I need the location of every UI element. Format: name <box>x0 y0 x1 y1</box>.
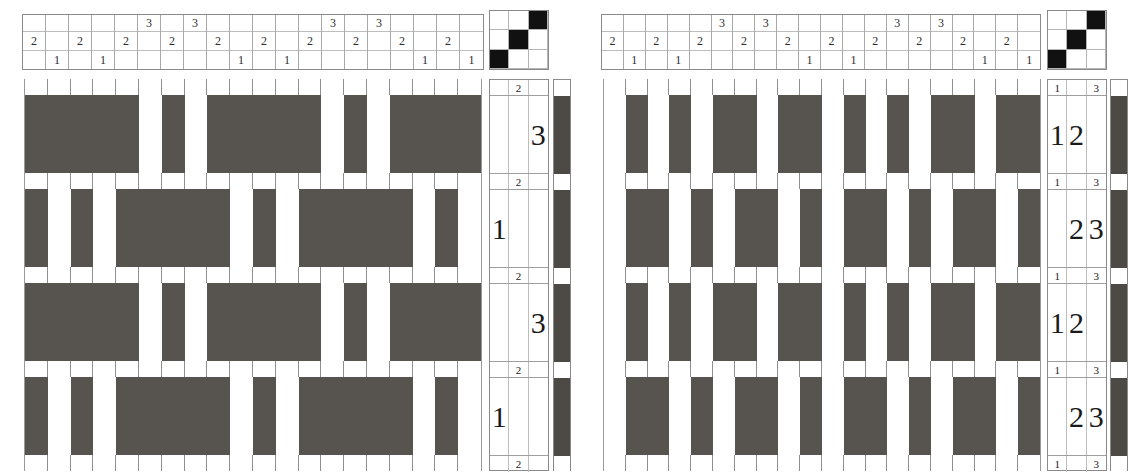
drawdown-cell-weft[interactable] <box>975 95 997 173</box>
threading-cell[interactable] <box>953 51 974 69</box>
drawdown-cell-warp[interactable] <box>162 95 185 173</box>
treadling-cell[interactable] <box>490 96 509 173</box>
treadling-cell[interactable]: 3 <box>1087 378 1106 455</box>
drawdown-cell-weft[interactable] <box>996 377 1018 455</box>
treadling-cell[interactable] <box>1067 174 1086 189</box>
drawdown-cell-warp[interactable] <box>713 283 735 361</box>
drawdown-cell-weft[interactable] <box>713 377 735 455</box>
treadling-row[interactable]: 13 <box>1048 268 1106 284</box>
treadling-cell[interactable]: 1 <box>1048 284 1067 361</box>
threading-cell[interactable] <box>115 15 137 32</box>
drawdown-cell-warp[interactable] <box>800 377 822 455</box>
threading-cell[interactable] <box>46 32 68 50</box>
threading-column[interactable]: 3 <box>931 15 953 69</box>
drawdown-cell-weft[interactable] <box>230 377 253 455</box>
tieup-cell-empty[interactable] <box>1067 11 1086 30</box>
threading-cell[interactable] <box>646 51 667 69</box>
threading-column[interactable]: 2 <box>953 15 975 69</box>
drawdown-cell-weft[interactable] <box>669 377 691 455</box>
threading-cell[interactable]: 3 <box>931 15 952 32</box>
tieup-cell-empty[interactable] <box>1048 30 1067 49</box>
tieup-cell-filled[interactable] <box>1087 11 1106 30</box>
treadling-cell[interactable]: 3 <box>529 284 548 361</box>
drawdown-cell-warp[interactable] <box>975 189 997 267</box>
drawdown-cell-weft[interactable] <box>887 189 909 267</box>
treadling-row[interactable]: 13 <box>1048 362 1106 378</box>
threading-cell[interactable]: 2 <box>777 32 798 50</box>
threading-cell[interactable] <box>646 15 667 32</box>
threading-cell[interactable] <box>996 51 1017 69</box>
drawdown-cell-weft[interactable] <box>321 283 344 361</box>
drawdown-cell-warp[interactable] <box>887 283 909 361</box>
drawdown-cell-warp[interactable] <box>735 283 757 361</box>
treadling-cell[interactable]: 3 <box>529 96 548 173</box>
treadling-cell[interactable]: 3 <box>1087 268 1106 283</box>
tieup-cell-filled[interactable] <box>529 11 548 30</box>
threading-cell[interactable] <box>184 51 206 69</box>
threading-cell[interactable]: 2 <box>391 32 413 50</box>
threading-column[interactable]: 2 <box>909 15 931 69</box>
drawdown-cell-warp[interactable] <box>909 189 931 267</box>
drawdown-cell-warp[interactable] <box>1018 95 1040 173</box>
treadling-row[interactable]: 2 <box>490 268 548 284</box>
threading-cell[interactable]: 3 <box>712 15 733 32</box>
treadling-cell[interactable] <box>490 174 509 189</box>
drawdown-cell-weft[interactable] <box>139 95 162 173</box>
treadling-cell[interactable]: 1 <box>1048 456 1067 472</box>
threading-cell[interactable]: 2 <box>69 32 91 50</box>
threading-cell[interactable]: 2 <box>437 32 459 50</box>
drawdown-cell-warp[interactable] <box>866 189 888 267</box>
threading-cell[interactable] <box>184 32 206 50</box>
threading-cell[interactable] <box>69 51 91 69</box>
drawdown-cell-warp[interactable] <box>953 95 975 173</box>
threading-cell[interactable] <box>1018 32 1040 50</box>
drawdown-row[interactable] <box>604 377 1040 455</box>
weft-segment-light[interactable] <box>1111 268 1127 284</box>
drawdown-cell-warp[interactable] <box>93 95 116 173</box>
drawdown-cell-weft[interactable] <box>48 189 71 267</box>
drawdown-cell-weft[interactable] <box>757 283 779 361</box>
weft-segment-dark[interactable] <box>554 96 570 174</box>
threading-column[interactable]: 3 <box>322 15 345 69</box>
drawdown-cell-weft[interactable] <box>778 377 800 455</box>
threading-cell[interactable] <box>733 15 754 32</box>
tieup-cell-filled[interactable] <box>1048 50 1067 69</box>
drawdown-cell-warp[interactable] <box>435 283 458 361</box>
drawdown-cell-weft[interactable] <box>93 189 116 267</box>
threading-cell[interactable] <box>437 51 459 69</box>
treadling-cell[interactable] <box>1067 362 1086 377</box>
treadling-cell[interactable]: 2 <box>509 174 528 189</box>
drawdown-grid[interactable] <box>24 79 482 471</box>
threading-cell[interactable] <box>821 15 842 32</box>
threading-cell[interactable] <box>161 51 183 69</box>
drawdown-cell-weft[interactable] <box>185 95 208 173</box>
drawdown-cell-weft[interactable] <box>458 377 481 455</box>
treadling-row[interactable]: 2 <box>490 174 548 190</box>
drawdown-cell-warp[interactable] <box>757 189 779 267</box>
drawdown-cell-weft[interactable] <box>139 283 162 361</box>
drawdown-cell-warp[interactable] <box>207 283 230 361</box>
threading-cell[interactable] <box>690 51 711 69</box>
tieup-cell-empty[interactable] <box>490 11 509 30</box>
drawdown-cell-warp[interactable] <box>321 377 344 455</box>
treadling-cell[interactable]: 2 <box>509 456 528 472</box>
treadling-row[interactable]: 23 <box>1048 190 1106 268</box>
drawdown-cell-warp[interactable] <box>185 189 208 267</box>
threading-cell[interactable] <box>865 51 886 69</box>
tieup-grid[interactable] <box>489 10 549 70</box>
drawdown-cell-weft[interactable] <box>367 95 390 173</box>
threading-cell[interactable] <box>865 15 886 32</box>
threading-cell[interactable]: 1 <box>46 51 68 69</box>
treadling-cell[interactable] <box>509 378 528 455</box>
threading-column[interactable]: 1 <box>230 15 253 69</box>
weft-segment-light[interactable] <box>1111 80 1127 96</box>
drawdown-cell-weft[interactable] <box>458 189 481 267</box>
threading-cell[interactable] <box>690 15 711 32</box>
treadling-cell[interactable]: 2 <box>509 80 528 95</box>
drawdown-cell-weft[interactable] <box>822 95 844 173</box>
tieup-cell-empty[interactable] <box>1067 50 1086 69</box>
treadling-row[interactable]: 12 <box>1048 96 1106 174</box>
threading-cell[interactable] <box>138 51 160 69</box>
treadling-row[interactable]: 13 <box>1048 174 1106 190</box>
threading-cell[interactable] <box>230 32 252 50</box>
